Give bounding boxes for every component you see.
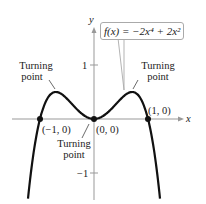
y-tick-label-1: 1 — [82, 60, 87, 71]
point-origin — [91, 116, 97, 122]
point-pos1-0 — [145, 116, 151, 122]
annotation-turning-right: Turning point — [136, 60, 180, 82]
point-label-pos1: (1, 0) — [148, 105, 171, 116]
y-axis-arrow-icon — [92, 27, 97, 33]
x-axis-label: x — [186, 113, 191, 124]
annotation-text: Turning — [14, 60, 58, 71]
point-neg1-0 — [37, 116, 43, 122]
annotation-turning-left: Turning point — [14, 60, 58, 82]
annotation-text: Turning — [52, 138, 96, 149]
y-axis-label: y — [89, 14, 94, 25]
annotation-text: point — [6, 71, 58, 82]
y-tick-label-neg1: −1 — [77, 168, 88, 179]
annotation-turning-mid: Turning point — [52, 138, 96, 160]
annotation-text: point — [52, 149, 96, 160]
equation-callout: f(x) = −2x⁴ + 2x² — [100, 22, 184, 40]
annotation-text: point — [136, 71, 180, 82]
point-label-neg1: (−1, 0) — [42, 124, 71, 135]
annotation-leader-mid — [82, 124, 89, 138]
equation-pointer — [118, 38, 124, 90]
x-axis-arrow-icon — [178, 117, 184, 122]
point-label-origin: (0, 0) — [96, 124, 119, 135]
annotation-text: Turning — [136, 60, 180, 71]
